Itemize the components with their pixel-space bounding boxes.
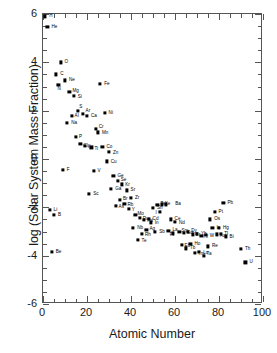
y-tick [43, 99, 47, 100]
data-point-label: Ne [69, 78, 75, 83]
data-point [105, 160, 108, 163]
x-tick-top [54, 14, 55, 18]
x-tick-top [131, 14, 132, 20]
x-tick-top [230, 14, 231, 18]
data-point-label: Ti [94, 147, 98, 152]
y-tick-right [258, 50, 262, 51]
y-tick-right [258, 268, 262, 269]
data-point-label: Pb [227, 200, 233, 205]
data-point [213, 211, 216, 214]
y-tick-right [258, 74, 262, 75]
abundance-scatter-figure: log (Solar System Mass Fraction) Atomic … [0, 0, 277, 353]
data-point [209, 218, 212, 221]
data-point-label: Zn [113, 150, 118, 155]
data-point [48, 208, 51, 211]
data-point [136, 238, 139, 241]
x-tick-top [153, 14, 154, 18]
x-tick-label: 40 [124, 306, 136, 318]
x-axis-title: Atomic Number [42, 327, 262, 341]
data-point-label: Li [54, 207, 58, 212]
data-point-label: Bi [230, 235, 234, 240]
data-point [211, 226, 214, 229]
data-point-label: Al [75, 114, 79, 119]
data-point-label: In [155, 221, 159, 226]
y-tick [43, 280, 47, 281]
x-tick [230, 299, 231, 303]
y-tick-label: 4 [9, 55, 37, 67]
data-point [118, 198, 121, 201]
data-point-label: Fe [104, 82, 109, 87]
x-tick-top [142, 14, 143, 18]
data-point-label: As [119, 204, 124, 209]
data-point-label: Sr [131, 188, 136, 193]
x-tick [164, 299, 165, 303]
data-point [191, 233, 194, 236]
x-tick [65, 299, 66, 303]
data-point [180, 243, 183, 246]
y-tick-right [258, 219, 262, 220]
x-tick-top [252, 14, 253, 18]
data-point-label: Co [106, 145, 112, 150]
data-point-label: Os [214, 217, 220, 222]
x-tick-top [208, 14, 209, 18]
data-point [182, 231, 185, 234]
data-point-label: O [65, 60, 69, 65]
data-point [202, 254, 205, 257]
x-tick [208, 299, 209, 303]
data-point-label: Hg [223, 226, 229, 231]
data-point-label: Be [56, 250, 62, 255]
data-point [198, 250, 201, 253]
y-tick [43, 135, 47, 136]
y-tick-label: 0 [9, 152, 37, 164]
y-tick [43, 62, 49, 63]
data-point [81, 113, 84, 116]
y-tick-label: 6 [9, 7, 37, 19]
data-point [99, 82, 102, 85]
y-tick [43, 256, 49, 257]
data-point [112, 174, 115, 177]
data-point-label: Zr [135, 196, 139, 201]
data-point-label: Cr [99, 125, 104, 130]
data-point [52, 213, 55, 216]
x-tick-label: 60 [168, 306, 180, 318]
x-tick [263, 296, 264, 302]
y-tick [43, 268, 47, 269]
y-tick [43, 123, 47, 124]
x-tick-label: 100 [253, 306, 271, 318]
data-point [222, 201, 225, 204]
y-tick-label: 2 [9, 104, 37, 116]
y-tick-right [258, 147, 262, 148]
data-point-label: Pr [170, 232, 175, 237]
y-tick-label: -6 [9, 297, 37, 309]
data-point [217, 226, 220, 229]
y-tick-right [258, 99, 262, 100]
data-point-label: Cu [111, 160, 117, 165]
x-tick [54, 299, 55, 303]
x-tick [142, 299, 143, 303]
y-tick-label: -2 [9, 200, 37, 212]
data-point [46, 26, 49, 29]
data-point [55, 73, 58, 76]
x-tick [241, 299, 242, 303]
plot-area: HHeOCNNeMgSiFeSArAlCaNiNaCrMnPClKTiCoZnC… [42, 13, 262, 303]
x-tick-label: 0 [39, 306, 45, 318]
data-point [90, 146, 93, 149]
data-point-label: V [98, 169, 101, 174]
data-point [88, 192, 91, 195]
data-point [140, 232, 143, 235]
x-tick-top [164, 14, 165, 18]
data-point [195, 232, 198, 235]
y-tick [43, 87, 47, 88]
y-tick [43, 183, 47, 184]
data-point [132, 226, 135, 229]
data-point-label: C [60, 72, 63, 77]
data-point-label: U [249, 260, 252, 265]
data-point-label: Br [123, 196, 128, 201]
y-tick-right [255, 256, 261, 257]
data-point [50, 250, 53, 253]
y-tick-right [258, 38, 262, 39]
x-tick-top [241, 14, 242, 18]
data-point [70, 114, 73, 117]
y-tick-right [258, 232, 262, 233]
x-tick-top [219, 14, 220, 20]
